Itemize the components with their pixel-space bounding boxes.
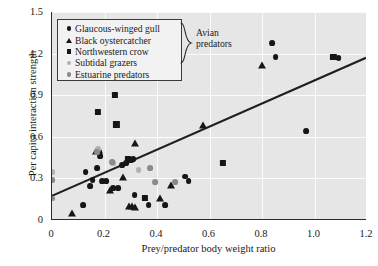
data-point (113, 121, 119, 127)
data-point (186, 178, 192, 184)
x-tick (52, 219, 53, 220)
data-point (112, 92, 118, 98)
circle-marker-icon (63, 72, 75, 77)
avian-label-line2: predators (196, 38, 232, 49)
data-point (125, 156, 131, 162)
data-point (148, 166, 154, 172)
data-point (146, 203, 152, 209)
data-point (80, 203, 86, 209)
data-point (87, 183, 93, 189)
circle-marker-icon (63, 61, 75, 66)
legend-item[interactable]: Glaucous-winged gull (63, 23, 177, 34)
data-point (51, 196, 55, 202)
x-tick (262, 219, 263, 220)
avian-group-brace (180, 22, 194, 64)
legend-item[interactable]: Estuarine predators (63, 69, 177, 80)
data-point (103, 178, 109, 184)
legend-item-label: Black oystercatcher (75, 35, 151, 46)
square-marker-icon (63, 49, 75, 54)
data-point (131, 140, 139, 147)
x-tick (157, 219, 158, 220)
data-point (330, 54, 336, 60)
data-point (220, 160, 226, 166)
legend-item[interactable]: Black oystercatcher (63, 34, 177, 45)
data-point (162, 203, 168, 209)
circle-marker-icon (63, 26, 75, 31)
legend-item[interactable]: Northwestern crow (63, 46, 177, 57)
x-tick-label: 1.2 (346, 229, 378, 240)
x-tick-label: 0.6 (189, 229, 229, 240)
x-tick (315, 219, 316, 220)
data-point (269, 40, 275, 46)
data-point (131, 203, 139, 210)
x-tick-label: 0.2 (84, 229, 124, 240)
legend[interactable]: Glaucous-winged gullBlack oystercatcherN… (57, 19, 182, 81)
data-point (142, 195, 148, 201)
y-tick-label: 1.2 (3, 49, 43, 60)
data-point (132, 192, 138, 198)
x-axis-title: Prey/predator body weight ratio (51, 243, 366, 254)
x-tick-label: 0 (31, 229, 71, 240)
data-point (68, 210, 76, 217)
data-point (152, 179, 158, 185)
avian-label-line1: Avian (196, 27, 232, 38)
legend-item-label: Subtidal grazers (75, 57, 137, 68)
y-tick-label: 0.6 (3, 132, 43, 143)
data-point (90, 177, 96, 183)
data-point (156, 194, 164, 201)
x-tick (210, 219, 211, 220)
data-point (258, 62, 266, 69)
y-tick-label: 0.9 (3, 90, 43, 101)
data-point (94, 150, 100, 156)
x-tick-label: 0.8 (241, 229, 281, 240)
data-point (303, 128, 309, 134)
data-point (106, 187, 114, 194)
y-tick-label: 0 (3, 215, 43, 226)
data-point (273, 54, 279, 60)
data-point (136, 167, 142, 173)
x-tick (105, 219, 106, 220)
data-point (95, 109, 101, 115)
data-point (51, 169, 55, 175)
legend-item-label: Northwestern crow (75, 46, 149, 57)
data-point (119, 173, 127, 180)
data-point (199, 122, 207, 129)
y-tick-label: 1.5 (3, 7, 43, 18)
legend-item[interactable]: Subtidal grazers (63, 57, 177, 68)
triangle-marker-icon (63, 38, 75, 43)
x-tick-label: 0.4 (136, 229, 176, 240)
data-point (336, 55, 342, 61)
scatter-plot-figure: Per capita interaction strength Prey/pre… (0, 0, 378, 266)
data-point (172, 179, 178, 185)
data-point (94, 165, 100, 171)
data-point (51, 177, 55, 183)
data-point (130, 156, 136, 162)
x-tick-label: 1.0 (294, 229, 334, 240)
data-point (115, 185, 121, 191)
avian-predators-label: Avian predators (196, 27, 232, 50)
y-tick-label: 0.3 (3, 173, 43, 184)
data-point (83, 169, 89, 175)
legend-item-label: Estuarine predators (75, 69, 149, 80)
data-point (109, 159, 115, 165)
legend-items: Glaucous-winged gullBlack oystercatcherN… (63, 23, 177, 80)
legend-item-label: Glaucous-winged gull (75, 23, 160, 34)
